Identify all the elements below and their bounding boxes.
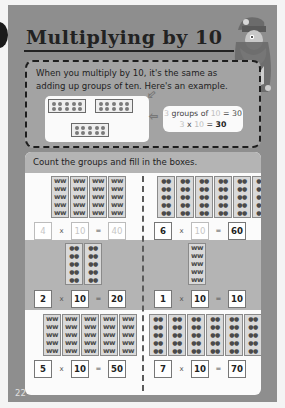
ten-input[interactable]: 10 <box>71 290 89 308</box>
butterfly-pair-icon: ww <box>121 323 135 331</box>
groups-input[interactable]: 1 <box>154 290 172 308</box>
ladybird-pair-icon: ●● <box>254 193 261 201</box>
butterfly-pair-icon: ww <box>110 201 124 209</box>
ladybird-pair-icon: ●● <box>159 209 173 217</box>
ladybird-pair-icon: ●● <box>246 315 260 323</box>
ladybird-pair-icon: ●● <box>254 177 261 185</box>
butterfly-pair-icon: ww <box>83 323 97 331</box>
groups-input[interactable]: 7 <box>154 360 172 378</box>
groups-input[interactable]: 4 <box>34 222 52 240</box>
butterfly-pair-icon: ww <box>102 315 116 323</box>
ten-input[interactable]: 10 <box>191 290 209 308</box>
ladybird-pair-icon: ●● <box>170 339 184 347</box>
butterfly-pair-icon: ww <box>53 193 67 201</box>
ten-input[interactable]: 10 <box>71 360 89 378</box>
ladybird-pair-icon: ●● <box>189 331 203 339</box>
example-panel <box>45 96 149 142</box>
butterfly-pair-icon: ww <box>91 209 105 217</box>
butterfly-pair-icon: ww <box>91 177 105 185</box>
exercise-instruction: Count the groups and fill in the boxes. <box>33 157 197 167</box>
equation-row: 7 x 10 = 70 <box>154 360 246 378</box>
ten-input[interactable]: 10 <box>191 360 209 378</box>
butterfly-pair-icon: ww <box>72 177 86 185</box>
butterfly-pair-icon: ww <box>45 331 59 339</box>
ladybird-pair-icon: ●● <box>227 323 241 331</box>
butterfly-pair-icon: ww <box>83 347 97 355</box>
butterfly-pair-icon: ww <box>190 260 204 268</box>
ladybird-pair-icon: ●● <box>159 193 173 201</box>
ladybird-pair-icon: ●● <box>67 268 81 276</box>
butterfly-groups: wwwwwwwwww <box>188 243 206 285</box>
ladybird-pair-icon: ●● <box>67 252 81 260</box>
equation-row: 6 x 10 = 60 <box>154 222 246 240</box>
ladybird-pair-icon: ●● <box>86 268 100 276</box>
butterfly-pair-icon: ww <box>110 185 124 193</box>
butterfly-pair-icon: ww <box>45 323 59 331</box>
answer-input[interactable]: 40 <box>108 222 126 240</box>
butterfly-pair-icon: ww <box>190 244 204 252</box>
ladybird-pair-icon: ●● <box>159 177 173 185</box>
answer-input[interactable]: 50 <box>108 360 126 378</box>
ladybird-pair-icon: ●● <box>151 323 165 331</box>
ladybird-pair-icon: ●● <box>86 276 100 284</box>
butterfly-pair-icon: ww <box>102 347 116 355</box>
ladybird-ten-stick: ●●●●●●●●●● <box>157 176 175 218</box>
ladybird-pair-icon: ●● <box>216 193 230 201</box>
answer-input[interactable]: 70 <box>228 360 246 378</box>
ladybird-pair-icon: ●● <box>216 201 230 209</box>
groups-input[interactable]: 6 <box>154 222 172 240</box>
ladybird-pair-icon: ●● <box>254 185 261 193</box>
butterfly-ten-stick: wwwwwwwwww <box>51 176 69 218</box>
butterfly-pair-icon: ww <box>102 331 116 339</box>
ladybird-ten-stick: ●●●●●●●●●● <box>168 314 186 356</box>
ladybird-pair-icon: ●● <box>246 331 260 339</box>
ladybird-pair-icon: ●● <box>189 315 203 323</box>
ladybird-pair-icon: ●● <box>170 347 184 355</box>
ladybird-pair-icon: ●● <box>197 177 211 185</box>
ladybird-pair-icon: ●● <box>86 244 100 252</box>
ladybird-pair-icon: ●● <box>197 185 211 193</box>
ladybird-groups: ●●●●●●●●●●●●●●●●●●●●●●●●●●●●●●●●●●●●●●●●… <box>157 176 261 218</box>
ladybird-pair-icon: ●● <box>159 201 173 209</box>
butterfly-pair-icon: ww <box>121 331 135 339</box>
page-title: Multiplying by 10 <box>26 26 222 48</box>
groups-input[interactable]: 5 <box>34 360 52 378</box>
example-explanation: 3 groups of 10 = 30 3 x 10 = 30 <box>163 106 243 132</box>
ladybird-pair-icon: ●● <box>67 276 81 284</box>
butterfly-pair-icon: ww <box>53 177 67 185</box>
exercise-panel: Count the groups and fill in the boxes. … <box>25 152 261 395</box>
arrow-left-icon: ⇦ <box>149 110 158 123</box>
butterfly-pair-icon: ww <box>64 315 78 323</box>
equation-row: 2 x 10 = 20 <box>34 290 126 308</box>
butterfly-pair-icon: ww <box>190 252 204 260</box>
butterfly-pair-icon: ww <box>45 315 59 323</box>
ladybird-pair-icon: ●● <box>208 339 222 347</box>
groups-input[interactable]: 2 <box>34 290 52 308</box>
page-edge-marker <box>0 22 8 48</box>
butterfly-ten-stick: wwwwwwwwww <box>119 314 137 356</box>
answer-input[interactable]: 60 <box>228 222 246 240</box>
ten-frame <box>48 99 86 113</box>
answer-input[interactable]: 10 <box>228 290 246 308</box>
ladybird-groups: ●●●●●●●●●●●●●●●●●●●● <box>65 243 102 285</box>
butterfly-pair-icon: ww <box>110 209 124 217</box>
ten-input[interactable]: 10 <box>71 222 89 240</box>
ladybird-pair-icon: ●● <box>151 315 165 323</box>
butterfly-pair-icon: ww <box>91 193 105 201</box>
equals-sign: = <box>209 295 228 303</box>
times-sign: x <box>172 365 191 373</box>
ten-input[interactable]: 10 <box>191 222 209 240</box>
answer-input[interactable]: 20 <box>108 290 126 308</box>
butterfly-pair-icon: ww <box>121 315 135 323</box>
ladybird-pair-icon: ●● <box>246 347 260 355</box>
times-sign: x <box>52 295 71 303</box>
ladybird-pair-icon: ●● <box>208 315 222 323</box>
ladybird-pair-icon: ●● <box>178 185 192 193</box>
exercise-header: Count the groups and fill in the boxes. <box>25 152 261 173</box>
ladybird-pair-icon: ●● <box>159 185 173 193</box>
ladybird-pair-icon: ●● <box>246 323 260 331</box>
butterfly-pair-icon: ww <box>72 193 86 201</box>
butterfly-pair-icon: ww <box>102 323 116 331</box>
butterfly-ten-stick: wwwwwwwwww <box>100 314 118 356</box>
times-sign: x <box>52 365 71 373</box>
